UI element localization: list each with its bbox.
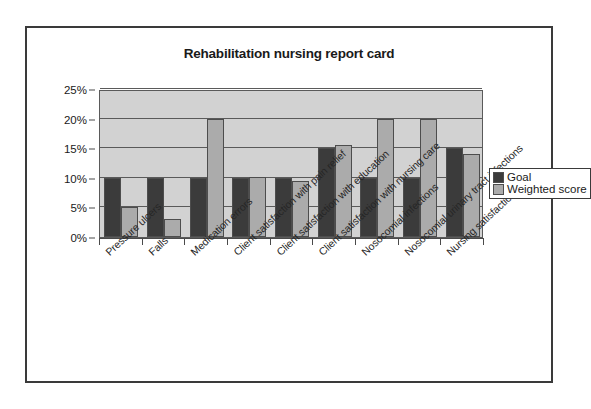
- legend-swatch-goal: [493, 172, 504, 183]
- legend-label: Weighted score: [507, 183, 587, 195]
- legend-swatch-weighted: [493, 184, 504, 195]
- x-tick-label: Nosocomial infections: [359, 181, 440, 258]
- legend-label: Goal: [507, 171, 531, 183]
- x-tick-label: Falls: [146, 234, 170, 258]
- figure-frame: Rehabilitation nursing report card 0%5%1…: [25, 26, 553, 383]
- legend-item: Goal: [493, 171, 587, 183]
- legend: GoalWeighted score: [489, 168, 591, 199]
- x-axis-labels: Pressure ulcersFallsMedication errorsCli…: [27, 28, 551, 381]
- legend-item: Weighted score: [493, 183, 587, 195]
